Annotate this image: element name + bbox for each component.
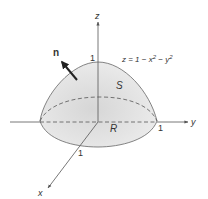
- surface-equation: z = 1 − x2 − y2: [121, 54, 173, 64]
- z-axis-label: z: [94, 11, 100, 21]
- surface-label: S: [116, 80, 123, 91]
- paraboloid-surface: [40, 62, 157, 147]
- region-label: R: [110, 123, 117, 134]
- y-axis-label: y: [190, 117, 196, 127]
- normal-label: n: [53, 47, 59, 58]
- x-axis-label: x: [37, 188, 43, 198]
- y-tick-one: 1: [158, 123, 163, 133]
- z-tick-one: 1: [90, 53, 95, 63]
- x-tick-one: 1: [78, 148, 83, 158]
- paraboloid-diagram: z y x 1 1 1 n S R z = 1 − x2 − y2: [0, 0, 208, 199]
